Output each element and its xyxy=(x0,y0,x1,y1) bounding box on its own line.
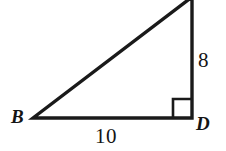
geometry-figure: B D 8 10 xyxy=(0,0,226,151)
side-length-label-vertical: 8 xyxy=(198,50,209,71)
side-length-label-base: 10 xyxy=(95,126,117,147)
right-angle-marker-icon xyxy=(173,99,192,118)
vertex-label-b: B xyxy=(11,107,24,126)
triangle-outline xyxy=(33,0,192,118)
vertex-label-d: D xyxy=(196,114,210,133)
